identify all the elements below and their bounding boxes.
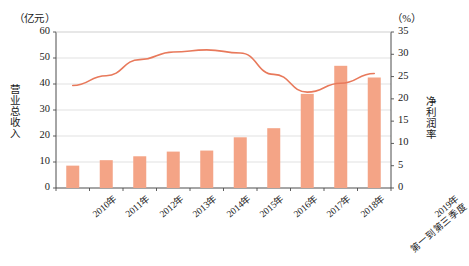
right-tick-label: 20 — [398, 93, 420, 104]
left-tick-label: 60 — [28, 26, 50, 37]
bar — [301, 94, 314, 188]
bar — [100, 160, 113, 188]
right-tick-label: 15 — [398, 115, 420, 126]
bar — [66, 166, 79, 188]
left-tick-label: 10 — [28, 156, 50, 167]
left-tick-label: 40 — [28, 78, 50, 89]
right-tick-label: 30 — [398, 48, 420, 59]
left-tick-label: 50 — [28, 52, 50, 63]
right-tick-label: 5 — [398, 160, 420, 171]
right-tick-label: 0 — [398, 182, 420, 193]
line-series-net-profit-margin — [73, 50, 375, 92]
right-tick-label: 35 — [398, 26, 420, 37]
bar — [368, 78, 381, 189]
left-tick-label: 20 — [28, 130, 50, 141]
right-tick-label: 25 — [398, 71, 420, 82]
bar — [133, 156, 146, 188]
left-tick-label: 0 — [28, 182, 50, 193]
bar — [167, 152, 180, 188]
left-tick-label: 30 — [28, 104, 50, 115]
bar — [200, 151, 213, 188]
right-tick-label: 10 — [398, 137, 420, 148]
bar — [234, 137, 247, 188]
bar — [267, 128, 280, 188]
